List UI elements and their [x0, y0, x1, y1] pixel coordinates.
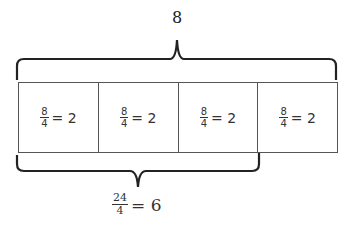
bottom-brace [17, 152, 259, 187]
cell: 84 = 2 [19, 83, 99, 152]
cell: 84 = 2 [99, 83, 179, 152]
top-brace [17, 40, 336, 80]
cell: 84 = 2 [258, 83, 337, 152]
fraction: 244 [112, 192, 128, 217]
fraction: 84 [120, 106, 128, 129]
partial-sum-label: 244 = 6 [112, 192, 161, 217]
fraction: 84 [279, 106, 287, 129]
cell: 84 = 2 [179, 83, 259, 152]
fraction: 84 [40, 106, 48, 129]
fraction: 84 [200, 106, 208, 129]
tape-bar: 84 = 2 84 = 2 84 = 2 84 = 2 [18, 82, 338, 153]
